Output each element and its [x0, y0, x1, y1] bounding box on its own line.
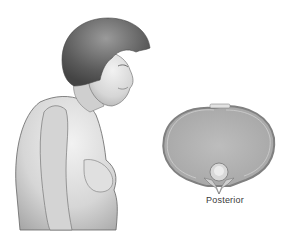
posterior-label: Posterior	[196, 195, 254, 205]
sternum	[210, 104, 230, 108]
woman-figure	[16, 18, 150, 230]
cross-section	[163, 104, 274, 194]
